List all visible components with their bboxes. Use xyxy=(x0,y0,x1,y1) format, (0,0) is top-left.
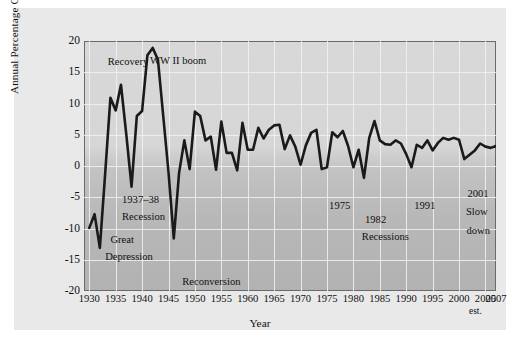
x-tick-label: 1935 xyxy=(105,294,126,305)
y-tick-label: 20 xyxy=(34,35,80,47)
x-tick-label: 1975 xyxy=(316,294,337,305)
figure-panel: Annual Percentage Change in Real GDP 201… xyxy=(14,8,506,330)
x-tick-label: 1960 xyxy=(237,294,258,305)
x-axis-est-note: est. xyxy=(469,306,482,316)
chart-annotation: Recovery xyxy=(108,56,149,69)
y-tick-label: 0 xyxy=(34,160,80,172)
x-tick-label: 1980 xyxy=(343,294,364,305)
x-axis-label: Year xyxy=(14,317,506,329)
y-tick-label: -5 xyxy=(34,191,80,203)
chart-annotation: Slow xyxy=(466,206,488,219)
y-axis-ticks: 20151050-5-10-15-20 xyxy=(28,41,80,291)
x-tick-label: 2000 xyxy=(448,294,469,305)
x-tick-label: 1970 xyxy=(290,294,311,305)
x-tick-label: 1965 xyxy=(264,294,285,305)
x-tick-label: 1945 xyxy=(158,294,179,305)
x-tick-label: 1985 xyxy=(369,294,390,305)
chart-annotation: Reconversion xyxy=(182,276,240,289)
y-tick-label: 10 xyxy=(34,98,80,110)
chart-annotation: 1937–38 xyxy=(122,194,159,207)
x-tick-label: 1955 xyxy=(211,294,232,305)
y-tick-label: 15 xyxy=(34,66,80,78)
x-tick-label: 2007 xyxy=(485,294,506,305)
y-tick-label: -15 xyxy=(34,254,80,266)
chart-annotation: 1982 xyxy=(365,214,386,227)
chart-annotation: 1991 xyxy=(414,200,435,213)
plot-area: RecoveryWW II boom1937–38RecessionGreatD… xyxy=(84,41,496,291)
x-tick-label: 1950 xyxy=(184,294,205,305)
chart-annotation: Great xyxy=(110,234,134,247)
y-tick-label: -10 xyxy=(34,223,80,235)
y-axis-label: Annual Percentage Change in Real GDP xyxy=(8,0,20,94)
chart-annotation: WW II boom xyxy=(150,55,206,68)
y-tick-label: 5 xyxy=(34,129,80,141)
chart-annotation: 2001 xyxy=(467,188,488,201)
x-tick-label: 1940 xyxy=(132,294,153,305)
chart-annotation: 1975 xyxy=(329,200,350,213)
y-tick-label: -20 xyxy=(34,285,80,297)
chart-annotation: Recession xyxy=(122,211,165,224)
chart-annotation: Recessions xyxy=(362,231,409,244)
x-tick-label: 1990 xyxy=(396,294,417,305)
x-tick-label: 1995 xyxy=(422,294,443,305)
x-axis-ticks: 1930193519401945195019551960196519701975… xyxy=(84,294,496,310)
chart-annotation: Depression xyxy=(105,251,153,264)
chart-annotation: down xyxy=(466,225,490,238)
x-tick-label: 1930 xyxy=(79,294,100,305)
